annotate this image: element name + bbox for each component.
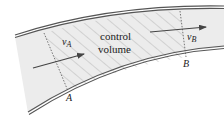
control-label-line2: volume bbox=[98, 43, 131, 55]
control-label-line1: control bbox=[100, 30, 131, 42]
section-a-label: A bbox=[65, 92, 73, 103]
section-b-label: B bbox=[183, 58, 189, 69]
control-volume-diagram: control volume vA vB A B bbox=[0, 0, 224, 123]
